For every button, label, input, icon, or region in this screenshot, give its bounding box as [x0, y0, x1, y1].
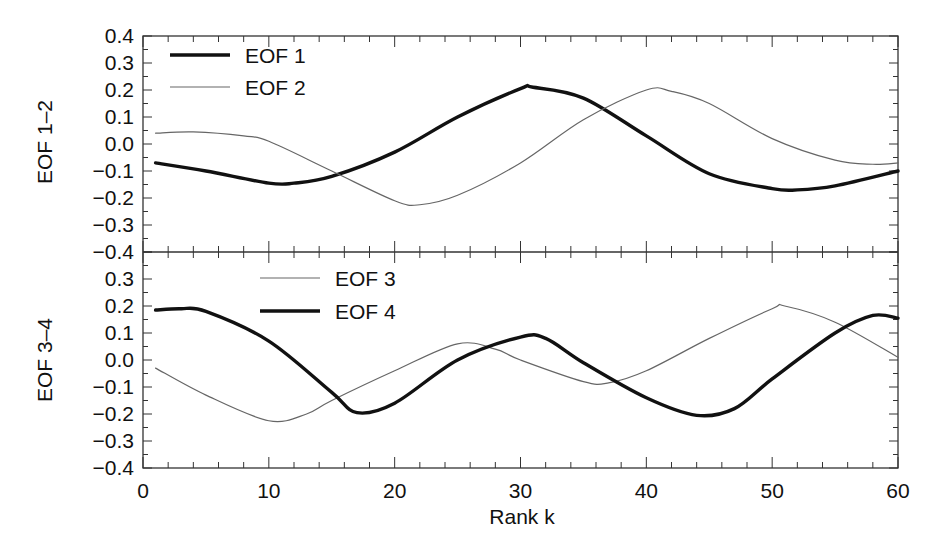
curve-eof3: [156, 304, 898, 421]
y-tick-label: 0.0: [105, 348, 134, 371]
legend-label-eof3: EOF 3: [335, 267, 396, 290]
y-tick-label: −0.2: [93, 186, 134, 209]
lower-legend: EOF 3 EOF 4: [260, 267, 396, 323]
y-tick-label: 0.3: [105, 51, 134, 74]
x-tick-label: 10: [257, 479, 280, 502]
y-tick-label: −0.3: [93, 429, 134, 452]
y-tick-label: −0.1: [93, 375, 134, 398]
x-tick-label: 60: [886, 479, 909, 502]
y-tick-label: −0.1: [93, 159, 134, 182]
curve-eof2: [156, 88, 898, 206]
x-tick-label: 50: [760, 479, 783, 502]
y-tick-label: 0.1: [105, 105, 134, 128]
x-tick-label: 0: [137, 479, 149, 502]
y-tick-label: 0.0: [105, 132, 134, 155]
eof-figure: 0.40.30.20.10.0−0.1−0.2−0.3−0.40.30.20.1…: [0, 0, 931, 554]
y-tick-label: 0.2: [105, 78, 134, 101]
y-tick-label: −0.4: [93, 456, 135, 479]
x-tick-label: 40: [635, 479, 658, 502]
y-tick-label: 0.4: [105, 24, 135, 47]
x-tick-label: 20: [383, 479, 406, 502]
x-axis-title: Rank k: [489, 505, 555, 528]
legend-label-eof2: EOF 2: [245, 76, 306, 99]
y-tick-label: 0.3: [105, 267, 134, 290]
lower-y-axis-title: EOF 3–4: [33, 318, 56, 402]
upper-legend: EOF 1 EOF 2: [170, 44, 306, 99]
curve-eof1: [156, 86, 898, 191]
x-tick-label: 30: [509, 479, 532, 502]
y-tick-label: −0.4: [93, 240, 135, 263]
upper-y-axis-title: EOF 1–2: [33, 100, 56, 184]
y-tick-label: −0.3: [93, 213, 134, 236]
legend-label-eof4: EOF 4: [335, 300, 396, 323]
legend-label-eof1: EOF 1: [245, 44, 306, 67]
y-tick-label: −0.2: [93, 402, 134, 425]
data-curves: [156, 86, 898, 422]
y-tick-label: 0.2: [105, 294, 134, 317]
y-tick-label: 0.1: [105, 321, 134, 344]
